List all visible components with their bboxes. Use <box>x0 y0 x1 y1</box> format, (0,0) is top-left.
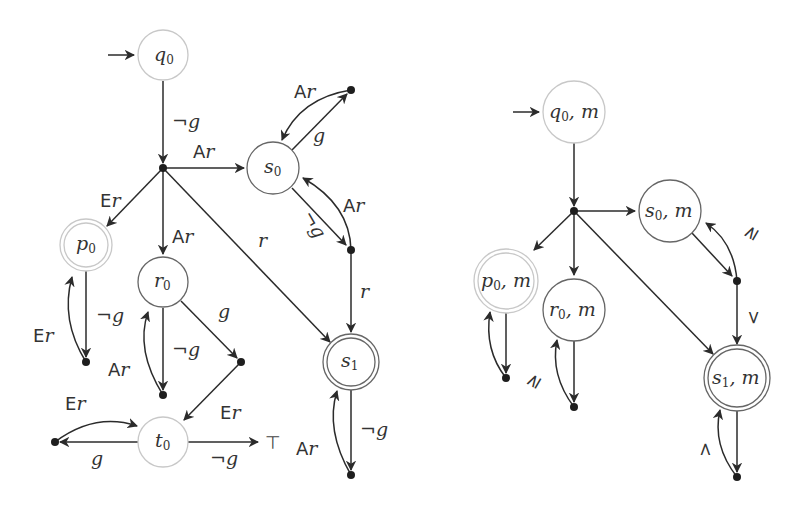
label-p0dot-p0: Er <box>33 324 55 346</box>
label-hub-p0: Er <box>100 189 122 211</box>
edge-s0m-rightdot <box>692 233 732 276</box>
choice-dot-r0 <box>159 391 167 399</box>
choice-dot-r0-g <box>237 358 245 366</box>
edge-p0mdot-p0m <box>489 312 506 378</box>
node-s0-m: s0, m <box>639 180 701 242</box>
edge-p0dot-p0 <box>68 277 86 362</box>
svg-text:s0, m: s0, m <box>645 199 693 223</box>
label-s0-rightdot: ¬g <box>298 206 331 241</box>
node-s0: s0 <box>247 142 299 194</box>
label-t0-top: ¬g <box>210 447 238 469</box>
edge-r0dot-r0 <box>144 312 163 395</box>
label-r0mdot-r0m: ≥ <box>520 369 546 393</box>
node-r0: r0 <box>138 257 188 307</box>
label-hub-s0: Ar <box>193 140 216 162</box>
label-leftdot-t0: Er <box>65 392 87 414</box>
label-topdot-s0: Ar <box>294 80 317 102</box>
choice-dot-hub-m <box>570 207 578 215</box>
label-rightdot-s1m: > <box>744 310 765 325</box>
choice-dot-s0-right <box>347 246 355 254</box>
choice-dot-p0m <box>502 374 510 382</box>
top-symbol: ⊤ <box>265 432 281 453</box>
edge-r0mdot-r0m <box>555 340 574 407</box>
choice-dot-t0-left <box>51 438 59 446</box>
node-q0: q0 <box>138 30 188 80</box>
choice-dot-hub <box>159 164 167 172</box>
choice-dot-s1m <box>733 473 741 481</box>
node-s1-m-accepting: s1, m <box>704 345 770 411</box>
label-p0-dot: ¬g <box>96 304 124 326</box>
choice-dot-s0m-right <box>733 277 741 285</box>
choice-dot-p0 <box>82 358 90 366</box>
label-gdot-t0: Er <box>220 401 242 423</box>
label-s0-topdot: g <box>313 124 325 146</box>
node-t0: t0 <box>138 417 188 467</box>
edge-hub-p0m <box>534 211 574 250</box>
node-r0-m: r0, m <box>543 279 605 341</box>
choice-dot-s1 <box>347 471 355 479</box>
node-p0-accepting: p0 <box>60 219 112 271</box>
label-rightdot-s0m: ≥ <box>737 221 763 245</box>
choice-dot-r0m <box>570 403 578 411</box>
label-t0-leftdot: g <box>91 447 103 469</box>
svg-text:s1, m: s1, m <box>712 366 760 390</box>
label-rightdot-s1: r <box>360 280 371 302</box>
label-s1dot-s1: Ar <box>296 437 319 459</box>
label-r0-dot: ¬g <box>172 338 200 360</box>
edge-hub-s1 <box>163 168 330 342</box>
automata-diagram: ¬g Ar Er Ar r g Ar ¬g Ar r ¬g Er ¬g <box>0 0 804 505</box>
svg-text:q0, m: q0, m <box>549 100 599 124</box>
label-s1mdot-s1m: > <box>694 442 715 457</box>
label-r0-gdot: g <box>218 300 230 322</box>
edge-s1mdot-s1m <box>718 410 737 477</box>
label-r0dot-r0: Ar <box>108 358 131 380</box>
label-q0-hub: ¬g <box>172 110 200 132</box>
label-s1-dot: ¬g <box>360 418 388 440</box>
svg-text:p0, m: p0, m <box>481 269 531 293</box>
node-q0-m: q0, m <box>543 81 605 143</box>
edge-s1dot-s1 <box>333 391 351 475</box>
svg-text:r0, m: r0, m <box>549 298 596 322</box>
edge-leftdot-t0 <box>55 422 137 442</box>
choice-dot-s0-top <box>347 86 355 94</box>
right-automaton: ≥ > ≥ > q0, m s0, m p0, m r0, m <box>474 81 770 481</box>
node-p0-m-accepting: p0, m <box>474 249 538 313</box>
left-automaton: ¬g Ar Er Ar r g Ar ¬g Ar r ¬g Er ¬g <box>33 30 388 479</box>
node-s1-accepting: s1 <box>323 334 379 390</box>
label-rightdot-s0: Ar <box>343 194 366 216</box>
label-hub-r0: Ar <box>172 225 195 247</box>
label-hub-s1: r <box>258 229 269 251</box>
